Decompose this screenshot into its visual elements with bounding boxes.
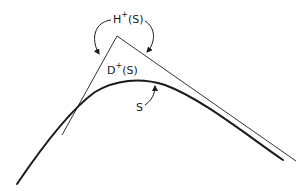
domain-label-sup: +	[115, 61, 122, 70]
surface-curve	[17, 81, 283, 184]
domain-label: D+(S)	[107, 63, 138, 76]
surface-arrow	[145, 86, 155, 105]
causal-diagram: H+(S) D+(S) S	[0, 0, 306, 191]
domain-label-arg: (S)	[122, 64, 138, 77]
surface-label: S	[136, 102, 143, 113]
diagram-graphics	[0, 0, 306, 191]
domain-boundary-right	[117, 36, 296, 161]
horizon-arrow-left	[95, 20, 111, 54]
horizon-arrow-right	[145, 21, 154, 52]
horizon-label-sup: +	[121, 10, 128, 19]
horizon-label: H+(S)	[113, 12, 144, 25]
horizon-label-arg: (S)	[128, 13, 144, 26]
